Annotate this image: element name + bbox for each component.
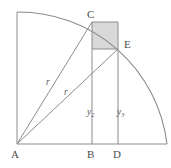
radius-label-ae: r	[64, 87, 68, 97]
shaded-rectangle	[92, 22, 118, 49]
point-label-A: A	[11, 148, 19, 160]
height-label-y2-subscript: 2	[91, 111, 95, 118]
height-label-y3: y3	[116, 107, 125, 118]
height-label-y3-subscript: 3	[120, 111, 125, 118]
geometry-figure: A B C D E r r y2 y3	[0, 0, 171, 168]
point-label-E: E	[124, 38, 131, 50]
point-label-D: D	[113, 148, 121, 160]
height-label-y2: y2	[86, 107, 95, 118]
point-label-B: B	[87, 148, 94, 160]
figure-canvas: A B C D E r r y2 y3	[0, 0, 171, 168]
point-label-C: C	[87, 8, 94, 20]
radius-label-ac: r	[46, 77, 50, 87]
radius-ac	[17, 22, 92, 144]
